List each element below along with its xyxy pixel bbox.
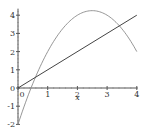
function-plot: 01234-2-101234x xyxy=(0,0,145,135)
x-tick-label: 1 xyxy=(45,90,50,99)
y-tick-label: 0 xyxy=(10,84,15,93)
x-axis-label: x xyxy=(75,93,80,102)
y-tick-label: -1 xyxy=(7,102,15,111)
y-tick-label: -2 xyxy=(7,120,15,129)
x-tick-label: 0 xyxy=(19,90,24,99)
y-tick-label: 1 xyxy=(10,66,15,75)
y-tick-label: 3 xyxy=(10,29,15,38)
x-tick-label: 4 xyxy=(134,90,139,99)
parabola-curve xyxy=(18,11,137,125)
linear-line xyxy=(18,15,137,88)
tick-labels: 01234-2-101234x xyxy=(7,11,139,129)
y-tick-label: 4 xyxy=(10,11,15,20)
plot-series xyxy=(18,11,137,125)
y-tick-label: 2 xyxy=(10,48,15,57)
x-tick-label: 3 xyxy=(105,90,110,99)
